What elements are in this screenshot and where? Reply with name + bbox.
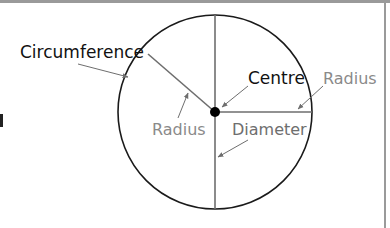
arrow-radius-left — [178, 93, 188, 118]
label-radius-left: Radius — [152, 120, 206, 139]
centre-dot — [210, 107, 220, 117]
arrow-diameter — [218, 140, 248, 157]
arrow-circumference — [78, 64, 128, 77]
cutoff-text-fragment — [0, 114, 3, 127]
frame-top-border — [0, 0, 390, 3]
circle-diagram: Circumference Centre Radius Radius Diame… — [0, 0, 390, 228]
radius-line-diagonal — [148, 54, 215, 112]
frame-right-border — [384, 0, 386, 228]
label-centre: Centre — [248, 68, 305, 88]
arrow-centre — [222, 86, 248, 107]
label-radius-right: Radius — [323, 69, 377, 88]
label-circumference: Circumference — [20, 42, 144, 62]
diagram-frame: Circumference Centre Radius Radius Diame… — [0, 0, 390, 228]
arrow-radius-right — [298, 86, 323, 109]
label-diameter: Diameter — [232, 120, 307, 139]
